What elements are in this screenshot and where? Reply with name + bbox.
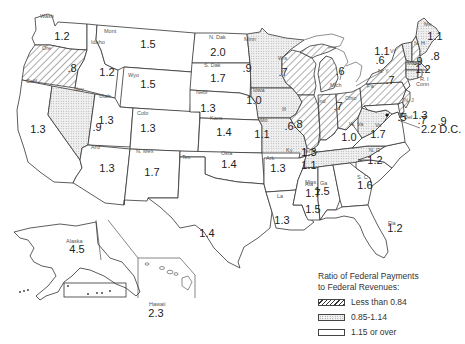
state-value-ariz: 1.3 [99, 162, 114, 174]
state-abbr-colo: Colo [137, 110, 148, 116]
state-value-pa: .7 [385, 74, 394, 86]
state-value-mo: 1.1 [254, 128, 269, 140]
state-value-ill: .6 [284, 120, 293, 132]
diagonal-hatch-swatch-icon [318, 299, 345, 306]
state-value-n-h: .8 [430, 50, 439, 62]
state-abbr-okla: Okla [221, 150, 233, 156]
state-abbr-ill: Ill [282, 106, 286, 112]
state-value-tenn: 1.1 [301, 159, 316, 171]
state-abbr-ore: Ore [42, 45, 51, 51]
state-value-kans: 1.4 [216, 126, 231, 138]
state-abbr-n-dak: N. Dak [209, 34, 226, 40]
state-value-okla: 1.4 [221, 158, 236, 170]
dotted-swatch-icon [318, 314, 345, 321]
state-abbr-tex: Tex [182, 154, 191, 160]
state-abbr-pa: Pa [367, 83, 375, 89]
aleutian-islands [19, 285, 111, 295]
state-abbr-kans: Kans [210, 115, 223, 121]
state-abbr-wash: Wash [40, 13, 54, 19]
state-abbr-utah: Utah [99, 93, 111, 99]
state-abbr-idaho: Idaho [91, 39, 105, 45]
legend-item-mid: 0.85-1.14 [318, 311, 458, 323]
state-abbr-ohio: Ohio [345, 95, 357, 101]
state-abbr-nev: Nev [74, 86, 84, 92]
state-value-n-c: 1.2 [367, 154, 382, 166]
state-value-vt: 1.1 [374, 45, 389, 57]
state-value-calif: 1.3 [30, 123, 45, 135]
state-abbr-n-mex: N. Mex [136, 148, 154, 154]
state-abbr-wyo: Wyo [128, 72, 139, 78]
state-value-n-mex: 1.7 [144, 166, 159, 178]
state-value-iowa: 1.0 [246, 94, 261, 106]
state-abbr-r-i: R. I [420, 76, 429, 82]
state-value-hawaii: 2.3 [148, 307, 163, 319]
state-abbr-minn: Minn [244, 36, 256, 42]
legend-label-high: 1.15 or over [351, 327, 396, 338]
state-abbr-nebr: Nebr [196, 89, 208, 95]
state-abbr-iowa: Iowa [253, 87, 266, 93]
legend-item-low: Less than 0.84 [318, 296, 458, 308]
state-value-wis: .7 [278, 66, 287, 78]
blank-swatch-icon [318, 329, 345, 336]
state-abbr-s-dak: S. Dak [204, 62, 221, 68]
legend-title-line-2: to Federal Revenues: [318, 282, 458, 293]
state-value-ohio: .7 [333, 100, 342, 112]
dc-value-label: 2.2 D.C. [421, 123, 461, 135]
state-abbr-ind: Ind [318, 98, 326, 104]
state-arizona [73, 145, 130, 205]
state-value-mich: .6 [335, 65, 344, 77]
legend-label-low: Less than 0.84 [351, 297, 407, 308]
state-abbr-mich: Mich [330, 82, 342, 88]
dc-marker [385, 113, 388, 116]
aleutian-inset-box [64, 283, 126, 297]
state-abbr-n-j: N. J [404, 97, 414, 103]
state-abbr-n-c: N. C [369, 147, 380, 153]
state-florida [320, 205, 388, 258]
state-abbr-ark: Ark [266, 155, 275, 161]
state-hawaii [145, 263, 192, 290]
state-abbr-la: La [277, 193, 284, 199]
state-value-n-dak: 2.0 [210, 46, 225, 58]
state-value-la: 1.3 [274, 214, 289, 226]
legend-label-mid: 0.85-1.14 [351, 312, 387, 323]
state-value-ky: 1.3 [301, 146, 316, 158]
state-value-s-dak: 1.7 [210, 72, 225, 84]
hawaii-inset-border [138, 258, 195, 298]
state-value-alaska: 4.5 [69, 243, 84, 255]
state-value-ore: .8 [67, 62, 76, 74]
legend-title: Ratio of Federal Payments to Federal Rev… [318, 271, 458, 293]
state-abbr-mo: Mo [260, 117, 268, 123]
state-abbr-mont: Mont [104, 28, 117, 34]
state-value-minn: .9 [242, 62, 251, 74]
state-value-me: 1.1 [427, 30, 442, 42]
state-value-idaho: 1.2 [99, 66, 114, 78]
legend: Ratio of Federal Payments to Federal Rev… [318, 271, 458, 341]
state-value-ark: 1.3 [270, 162, 285, 174]
state-value-nebr: 1.3 [200, 102, 215, 114]
state-abbr-ky: Ky [286, 147, 293, 153]
state-abbr-me: Me [424, 21, 432, 27]
state-abbr-calif: Calif [26, 78, 37, 84]
state-alaska [14, 222, 140, 300]
state-abbr-w-va: W. Va [349, 121, 364, 127]
state-value-mass: .9 [413, 55, 422, 67]
state-abbr-ariz: Ariz [91, 144, 101, 150]
state-value-s-c: 1.6 [357, 179, 372, 191]
state-value-va: 1.7 [370, 128, 385, 140]
state-value-wash: 1.2 [54, 30, 69, 42]
state-value-utah: 1.3 [98, 114, 113, 126]
inset-divider-2 [108, 220, 138, 258]
state-value-ga: 1.5 [314, 185, 329, 197]
state-value-tex: 1.4 [199, 227, 214, 239]
state-value-w-va: 1.0 [341, 131, 356, 143]
state-value-colo: 1.3 [140, 122, 155, 134]
state-abbr-n-h: N. H [414, 40, 425, 46]
state-abbr-vt: Vt [390, 48, 396, 54]
state-value-del: .5 [397, 111, 406, 123]
state-value-fla: 1.2 [387, 222, 402, 234]
state-value-ind: .8 [293, 118, 302, 130]
legend-title-line-1: Ratio of Federal Payments [318, 271, 458, 282]
state-value-mont: 1.5 [140, 38, 155, 50]
state-value-wyo: 1.5 [140, 78, 155, 90]
state-abbr-wis: Wis [278, 55, 287, 61]
